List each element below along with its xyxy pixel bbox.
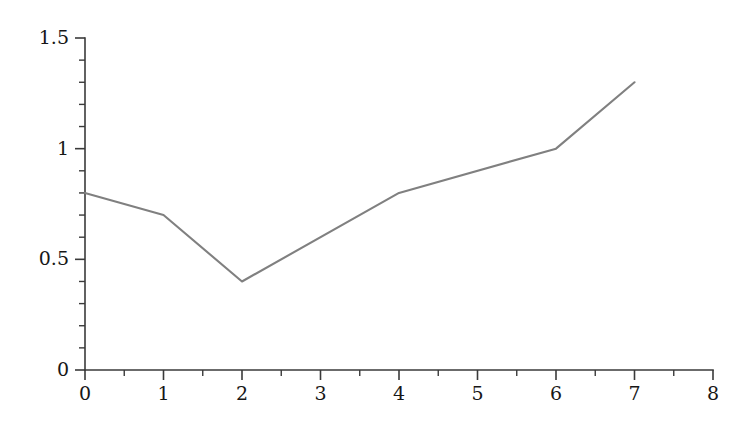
y-axis-minor-ticks <box>79 60 85 348</box>
x-axis-tick-label: 5 <box>471 382 483 404</box>
x-axis-tick-label: 3 <box>314 382 326 404</box>
y-axis-group: 00.511.5 <box>39 26 85 380</box>
y-axis-tick-label: 1 <box>57 137 69 159</box>
line-chart: 00.511.5 012345678 <box>0 0 738 426</box>
data-line-series-1 <box>85 82 635 281</box>
y-axis-major-ticks <box>75 38 85 370</box>
y-axis-tick-label: 0.5 <box>39 247 69 269</box>
plot-area: 00.511.5 012345678 <box>0 0 738 426</box>
y-axis-tick-label: 1.5 <box>39 26 69 48</box>
x-axis-tick-label: 8 <box>707 382 719 404</box>
x-axis-tick-label: 2 <box>236 382 248 404</box>
x-axis-tick-label: 6 <box>550 382 562 404</box>
x-axis-major-ticks <box>85 370 713 380</box>
y-axis-tick-labels: 00.511.5 <box>39 26 69 380</box>
y-axis-tick-label: 0 <box>57 358 69 380</box>
x-axis-tick-label: 7 <box>628 382 640 404</box>
x-axis-tick-labels: 012345678 <box>79 382 719 404</box>
x-axis-tick-label: 1 <box>157 382 169 404</box>
x-axis-group: 012345678 <box>79 370 719 404</box>
data-series-group <box>85 82 635 281</box>
x-axis-tick-label: 0 <box>79 382 91 404</box>
x-axis-tick-label: 4 <box>393 382 405 404</box>
